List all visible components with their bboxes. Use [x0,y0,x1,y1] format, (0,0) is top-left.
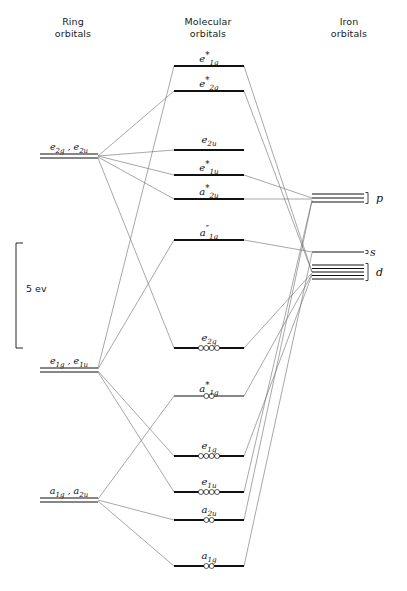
mo-level-label-e2g: e2g [201,332,216,346]
electron-a1g-1 [209,564,214,569]
mo-level-label-a2u: a2u [201,504,216,518]
electron-e2g-1 [204,346,209,351]
mo-level-label-a1g-doubleprime: a″1g [200,224,218,241]
iron-level-label-s: s [370,246,376,259]
connector-line-e1g-e1u-to-e1g [98,371,174,456]
connector-line-a2u-to-p [244,201,312,520]
connector-line-e1g-e1u-to-a1g-doubleprime [98,240,174,369]
connector-line-e2g-to-d [244,273,312,348]
ring-level-label-e1g-e1u: e1g , e1u [50,355,88,369]
electron-e1u-2 [209,490,214,495]
connector-line-a1g-star-to-d [244,274,312,396]
connector-line-e2g-e2u-to-a2u-star [98,157,174,199]
connector-line-e2g-e2u-to-e2g-star [98,91,174,156]
mo-level-label-e1u-star: e*1u [199,159,218,176]
mo-level-label-e2g-star: e*2g [199,75,218,92]
ring-orbital-levels [40,154,98,502]
connector-line-e1g-e1u-to-e1u [98,372,174,492]
electron-a2u-0 [204,518,209,523]
mo-level-label-a1g: a1g [201,550,216,564]
connector-line-e2g-e2u-to-e2g [98,158,174,348]
connector-line-a1g-a2u-to-a1g [98,501,174,566]
connector-line-e2g-e2u-to-e1u-star [98,156,174,175]
electron-e1u-0 [198,490,203,495]
iron-orbital-levels [312,193,368,281]
ring-level-label-e2g-e2u: e2g , e2u [50,141,88,155]
electron-e1g-2 [209,454,214,459]
connector-line-e1g-to-d [244,275,312,456]
connector-line-e1g-star-to-d [244,66,312,272]
electron-e1u-1 [204,490,209,495]
electron-a1g-0 [204,564,209,569]
connector-line-a1g-a2u-to-a2u [98,500,174,520]
mo-energy-diagram: Ring orbitals Molecular orbitals Iron or… [0,0,407,591]
connector-line-a1g-to-s [244,253,312,566]
electron-e1g-1 [204,454,209,459]
electron-e1g-3 [215,454,220,459]
electron-a2u-1 [209,518,214,523]
mo-level-label-e2u: e2u [201,134,216,148]
energy-scale-bracket [16,243,23,348]
electron-e2g-2 [209,346,214,351]
electron-e1u-3 [215,490,220,495]
energy-scale-label: 5 ev [26,283,47,294]
electron-e1g-0 [198,454,203,459]
iron-level-label-d: d [376,266,383,279]
connector-line-a1g-a2u-to-a1g-star [98,396,174,499]
connector-line-e1u-to-p [244,200,312,492]
mo-level-label-e1g: e1g [201,440,216,454]
iron-level-label-p: p [376,192,383,205]
electron-e2g-0 [198,346,203,351]
connector-line-e1g-e1u-to-e1g-star [98,66,174,368]
connector-line-e1u-star-to-p [244,175,312,198]
ring-level-label-a1g-a2u: a1g , a2u [50,485,88,499]
connector-line-e2g-e2u-to-e2u [98,150,174,156]
electron-e2g-3 [215,346,220,351]
mo-level-label-a2u-star: a*2u [199,183,218,200]
mo-level-label-e1u: e1u [201,476,216,490]
mo-level-label-e1g-star: e*1g [199,50,218,67]
mo-level-label-a1g-star: a*1g [199,380,218,397]
